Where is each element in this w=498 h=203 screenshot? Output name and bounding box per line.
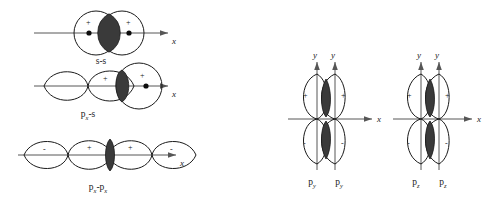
sign-bottom-right-4: - — [341, 139, 344, 148]
x-axis-arrow-4 — [364, 116, 372, 122]
x-axis-label-5: x — [476, 114, 481, 124]
y-axis-label-5b: y — [434, 50, 439, 60]
sign-s-2: + — [140, 71, 145, 80]
x-axis-arrow-5 — [464, 116, 472, 122]
sign-right-1: + — [126, 18, 131, 27]
overlap-region-top-4 — [322, 79, 331, 117]
overlap-region-top-5 — [426, 79, 435, 117]
diagram-label-s-s: s-s — [96, 56, 107, 66]
sign-top-right-4: + — [341, 91, 346, 100]
x-axis-arrow-2 — [160, 83, 168, 89]
overlap-region-bottom-4 — [322, 121, 331, 159]
figure-canvas: x + + s-s x + + px-s x — [0, 0, 498, 203]
orbital-label-5a: pz — [412, 177, 420, 189]
sign-bottom-right-5: - — [445, 139, 448, 148]
nucleus-left-1 — [86, 30, 91, 35]
overlap-region-2 — [116, 70, 129, 102]
sign-bottom-left-4: - — [303, 139, 306, 148]
orbital-label-5b: pz — [439, 177, 447, 189]
sign-inner-right-3: + — [128, 143, 133, 152]
y-axis-arrow-5b — [436, 62, 442, 70]
y-axis-arrow-4b — [332, 62, 338, 70]
overlap-region-3 — [106, 139, 115, 171]
diagram-label-px-px: px-px — [89, 182, 108, 194]
sign-left-1: + — [86, 18, 91, 27]
diagram-pz-pz: x y y + + - - pz pz — [393, 50, 481, 189]
sign-inner-left-3: + — [87, 143, 92, 152]
y-axis-label-4b: y — [330, 50, 335, 60]
orbital-label-4a: py — [308, 177, 316, 189]
nucleus-2 — [143, 83, 148, 88]
diagram-s-s: x + + s-s — [34, 11, 176, 66]
x-axis-label-2: x — [171, 89, 176, 99]
x-axis-arrow-1 — [160, 30, 168, 36]
sign-bottom-left-5: - — [407, 139, 410, 148]
diagram-label-px-s: px-s — [81, 109, 96, 121]
sign-outer-left-3: - — [43, 145, 46, 154]
diagram-px-s: x + + px-s — [34, 63, 176, 121]
y-axis-arrow-4a — [314, 62, 320, 70]
sign-top-left-5: + — [407, 91, 412, 100]
nucleus-right-1 — [126, 30, 131, 35]
sign-inner-2: + — [103, 74, 108, 83]
orbital-label-4b: py — [335, 177, 343, 189]
y-axis-label-4a: y — [312, 50, 317, 60]
x-axis-label-4: x — [376, 114, 381, 124]
y-axis-label-5a: y — [416, 50, 421, 60]
sign-top-right-5: + — [445, 91, 450, 100]
overlap-region-1 — [98, 14, 121, 52]
x-axis-label-1: x — [171, 36, 176, 46]
y-axis-arrow-5a — [418, 62, 424, 70]
sign-top-left-4: + — [303, 91, 308, 100]
sign-outer-right-3: - — [170, 145, 173, 154]
diagram-px-px: x - + + - px-px — [18, 139, 196, 194]
overlap-region-bottom-5 — [426, 121, 435, 159]
diagram-py-py: x y y + + - - py py — [288, 50, 381, 189]
